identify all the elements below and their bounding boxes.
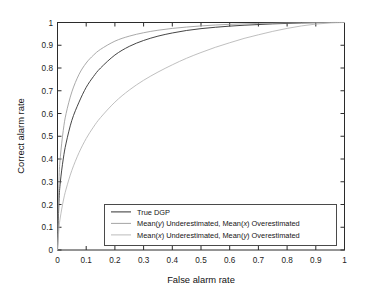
y-tick-label: 0.2 (42, 201, 54, 210)
x-tick-label: 0.7 (253, 256, 265, 265)
x-axis-title: False alarm rate (167, 274, 235, 285)
x-tick-label: 0.9 (310, 256, 322, 265)
x-tick-label: 1 (342, 256, 347, 265)
x-tick-label: 0.1 (81, 256, 93, 265)
y-tick-label: 1 (48, 19, 53, 28)
y-tick-label: 0.1 (42, 223, 54, 232)
legend-label-3: Mean(x) Underestimated, Mean(y) Overesti… (137, 231, 300, 240)
roc-plot-svg: 00.10.20.30.40.50.60.70.80.91 00.10.20.3… (0, 0, 365, 298)
y-axis-title: Correct alarm rate (15, 98, 26, 174)
legend-label-2: Mean(y) Underestimated, Mean(x) Overesti… (137, 219, 300, 228)
chart-legend: True DGPMean(y) Underestimated, Mean(x) … (105, 205, 337, 246)
y-tick-label: 0.4 (42, 155, 54, 164)
y-tick-label: 0.9 (42, 41, 54, 50)
x-tick-label: 0.8 (281, 256, 293, 265)
y-tick-label: 0.3 (42, 178, 54, 187)
y-tick-label: 0.8 (42, 64, 54, 73)
x-tick-label: 0.3 (138, 256, 150, 265)
y-tick-label: 0 (48, 246, 53, 255)
x-tick-label: 0.2 (109, 256, 121, 265)
legend-label-1: True DGP (137, 208, 170, 217)
roc-chart-figure: 00.10.20.30.40.50.60.70.80.91 00.10.20.3… (0, 0, 365, 298)
y-tick-label: 0.5 (42, 132, 54, 141)
chart-background (0, 0, 365, 298)
y-tick-label: 0.7 (42, 87, 54, 96)
x-tick-label: 0.4 (167, 256, 179, 265)
x-tick-label: 0.6 (224, 256, 236, 265)
y-tick-label: 0.6 (42, 110, 54, 119)
x-tick-label: 0.5 (195, 256, 207, 265)
x-tick-label: 0 (55, 256, 60, 265)
